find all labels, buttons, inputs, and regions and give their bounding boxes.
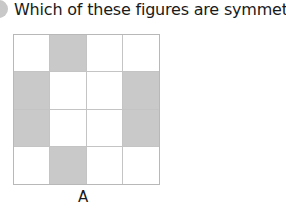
grid-cell-empty: [87, 35, 123, 72]
grid-cell-shaded: [50, 35, 86, 72]
question-number-bullet: [0, 0, 8, 18]
figure-label: A: [78, 188, 88, 206]
grid-cell-shaded: [14, 110, 50, 147]
grid-cell-empty: [87, 147, 123, 184]
grid-cell-empty: [123, 147, 159, 184]
grid-cell-shaded: [123, 110, 159, 147]
grid-cell-empty: [87, 72, 123, 109]
grid-cell-empty: [14, 147, 50, 184]
grid-cell-empty: [14, 35, 50, 72]
grid-cell-shaded: [14, 72, 50, 109]
grid-cell-shaded: [123, 72, 159, 109]
question-text: Which of these figures are symmetric?: [14, 0, 286, 20]
figure-a-grid: [13, 34, 160, 185]
grid-cell-empty: [87, 110, 123, 147]
grid-cell-empty: [50, 72, 86, 109]
grid-cell-shaded: [50, 147, 86, 184]
grid-cell-empty: [50, 110, 86, 147]
grid-cell-empty: [123, 35, 159, 72]
